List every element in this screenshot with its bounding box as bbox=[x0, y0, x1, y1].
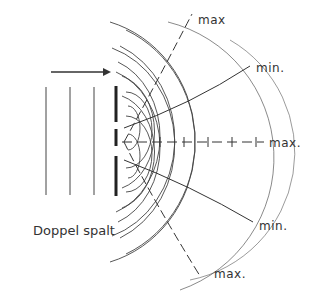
plane-wavefronts bbox=[46, 87, 94, 195]
caption-doppelspalt: Doppel spalt bbox=[33, 223, 115, 238]
label-min-lower: min. bbox=[259, 219, 287, 233]
label-max-top: max bbox=[198, 13, 226, 27]
max-line-top bbox=[124, 14, 192, 142]
label-max-bottom: max. bbox=[214, 267, 246, 281]
max-line-bottom bbox=[124, 142, 200, 276]
label-max-center: max. bbox=[269, 136, 301, 150]
double-slit-diagram: max min. max. min. max. Doppel spalt bbox=[0, 0, 316, 301]
interference-lines bbox=[122, 14, 264, 276]
incident-arrow-icon bbox=[51, 68, 111, 76]
label-min-upper: min. bbox=[256, 61, 284, 75]
wave-arcs-upper-slit bbox=[110, 30, 195, 262]
